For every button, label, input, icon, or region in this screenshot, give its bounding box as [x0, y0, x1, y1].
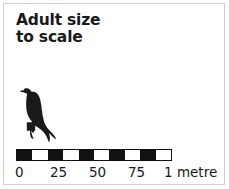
- title-line-1: Adult size: [16, 12, 166, 29]
- scale-tick-label: 0: [15, 164, 24, 180]
- scale-tick-label: 25: [50, 164, 67, 180]
- scale-tick-label: 1 metre: [164, 164, 217, 180]
- scale-bar-segment: [156, 150, 171, 160]
- scale-bar-segment: [125, 150, 140, 160]
- scale-bar-segment: [17, 150, 32, 160]
- scale-bar-segment: [140, 150, 155, 160]
- bird-silhouette-icon: [18, 86, 64, 148]
- scale-bar-segment: [109, 150, 124, 160]
- scale-bar-segment: [63, 150, 78, 160]
- page-title: Adult size to scale: [16, 12, 166, 46]
- scale-bar: [16, 149, 172, 161]
- scale-tick-label: 75: [128, 164, 145, 180]
- scale-bar-segment: [79, 150, 94, 160]
- scale-bar-segment: [32, 150, 47, 160]
- scale-bar-group: [16, 149, 172, 161]
- scale-bar-segment: [94, 150, 109, 160]
- scale-panel: Adult size to scale 02550751 metre: [3, 3, 225, 185]
- scale-tick-label: 50: [89, 164, 106, 180]
- scale-bar-segment: [48, 150, 63, 160]
- scale-tick-labels: 02550751 metre: [4, 164, 219, 184]
- title-line-2: to scale: [16, 29, 166, 46]
